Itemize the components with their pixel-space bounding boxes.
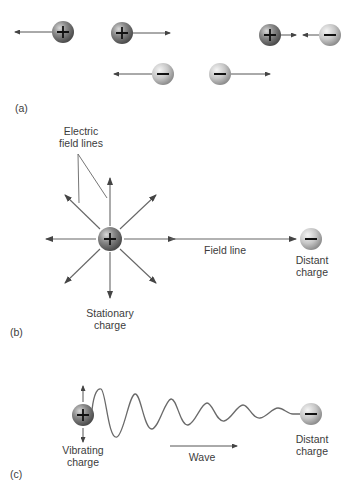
stationary-positive-charge: [98, 227, 122, 251]
positive-charge: [52, 21, 74, 43]
vibrating-positive-charge: [72, 404, 94, 426]
negative-charge: [209, 63, 231, 85]
label-pointer: [78, 154, 79, 203]
vibrating-charge-label: Vibrating charge: [52, 444, 114, 468]
wave-line: [92, 389, 300, 437]
panel-a-label: (a): [15, 102, 28, 114]
field-line-label: Field line: [195, 244, 255, 256]
repel-positive-pair: [15, 21, 170, 44]
field-line-up-left: [65, 195, 100, 229]
field-line-down-right: [120, 249, 156, 283]
radial-field-lines: [46, 178, 296, 298]
positive-charge: [111, 22, 133, 44]
panel-c-label: (c): [10, 468, 22, 480]
panel-b: [46, 154, 322, 298]
distant-negative-charge: [300, 403, 322, 425]
panel-b-label: (b): [10, 326, 23, 338]
negative-charge: [319, 24, 341, 46]
wave-label: Wave: [180, 451, 224, 463]
electric-field-lines-label: Electric field lines: [52, 125, 110, 149]
attract-pair: [259, 24, 341, 46]
field-line-up-right: [120, 195, 156, 229]
label-pointer: [78, 154, 107, 198]
distant-charge-label: Distant charge: [285, 433, 339, 457]
repel-negative-pair: [114, 63, 270, 85]
distant-charge-label: Distant charge: [285, 254, 339, 278]
negative-charge: [152, 63, 174, 85]
positive-charge: [259, 24, 281, 46]
distant-negative-charge: [300, 228, 322, 250]
stationary-charge-label: Stationary charge: [78, 307, 142, 331]
field-line-down-left: [65, 249, 100, 283]
panel-a: [15, 21, 341, 85]
